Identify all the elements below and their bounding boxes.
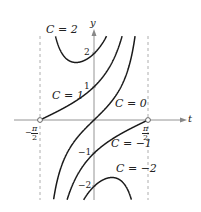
t-axis-arrow-icon xyxy=(180,118,187,123)
y-tick-label-neg2: −2 xyxy=(78,181,91,190)
denominator: 2 xyxy=(31,134,38,142)
y-axis-arrow-icon xyxy=(92,29,97,36)
point-left-marker xyxy=(38,118,43,123)
curve-label-cneg2: C = −2 xyxy=(116,163,157,174)
curve-label-cneg1: C = −1 xyxy=(111,138,152,149)
point-right-marker xyxy=(146,118,151,123)
curve-label-c0: C = 0 xyxy=(115,98,147,109)
x-tick-label-neg-pi-half: − π 2 xyxy=(31,125,38,142)
y-tick-label-neg1: −1 xyxy=(78,148,91,157)
minus-sign: − xyxy=(25,129,32,137)
y-tick-label-2: 2 xyxy=(84,48,90,57)
curve-c1 xyxy=(40,36,122,120)
solution-curves-plot xyxy=(0,0,201,212)
y-axis-label: y xyxy=(90,18,96,28)
curve-label-c2: C = 2 xyxy=(46,24,78,35)
y-tick-label-1: 1 xyxy=(84,82,90,91)
t-axis-label: t xyxy=(188,114,192,124)
curve-c2 xyxy=(56,36,107,62)
curve-label-c1: C = 1 xyxy=(52,90,84,101)
